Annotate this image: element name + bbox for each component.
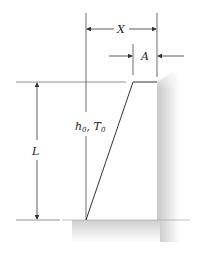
dimension-a: A [109,50,184,63]
label-x: X [116,23,126,36]
dimension-l: L [31,83,39,219]
fin-diagram: X A L h0, T0 [0,0,198,262]
label-h0-t0: h0, T0 [75,120,106,134]
fin-sloped-edge [86,82,133,220]
ground-base [72,220,160,242]
dimension-x: X [87,23,156,36]
label-a: A [140,50,149,63]
wall [157,68,180,242]
label-l: L [31,145,39,158]
